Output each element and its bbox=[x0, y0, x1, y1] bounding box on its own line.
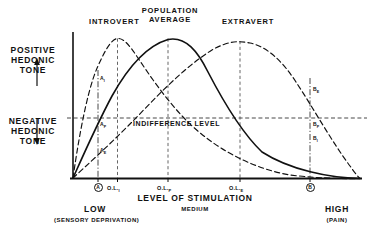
point-label-a-extravert-sub: E bbox=[104, 151, 107, 155]
x-tick-label-ol-p-base: O.L. bbox=[157, 185, 169, 191]
x-tick-marker-b: B bbox=[306, 183, 315, 192]
y-axis-positive-line3: TONE bbox=[2, 66, 64, 76]
curve-label-population-line2: AVERAGE bbox=[136, 16, 204, 25]
x-tick-marker-a-label: A bbox=[96, 184, 100, 190]
point-label-b-population-sub: P bbox=[317, 125, 320, 129]
x-tick-label-ol-i-base: O.L. bbox=[107, 185, 119, 191]
point-label-a-extravert: AE bbox=[100, 148, 106, 155]
point-label-b-extravert: BE bbox=[313, 87, 319, 94]
x-region-sublabel-sensory-deprivation: (SENSORY DEPRIVATION) bbox=[54, 217, 136, 224]
reference-lines bbox=[67, 39, 367, 179]
y-axis-negative-label: NEGATIVE HEDONIC TONE bbox=[2, 117, 64, 146]
x-tick-label-ol-e-base: O.L. bbox=[229, 185, 241, 191]
x-tick-marker-a: A bbox=[94, 183, 103, 192]
curve-extravert bbox=[73, 42, 360, 179]
x-region-label-medium: MEDIUM bbox=[165, 206, 225, 213]
x-region-label-high: HIGH bbox=[315, 205, 359, 215]
x-region-sublabel-pain: (PAIN) bbox=[315, 217, 359, 224]
point-label-b-extravert-sub: E bbox=[317, 90, 320, 94]
point-label-a-introvert: AI bbox=[100, 76, 105, 83]
x-tick-label-ol-i-sub: I bbox=[119, 188, 120, 193]
y-axis-positive-label: POSITIVE HEDONIC TONE bbox=[2, 46, 64, 75]
curve-label-extravert: EXTRAVERT bbox=[222, 18, 274, 27]
indifference-level-label: INDIFFERENCE LEVEL bbox=[133, 120, 220, 128]
curve-population-average bbox=[73, 39, 360, 178]
curve-label-population-average: POPULATION AVERAGE bbox=[136, 7, 204, 24]
x-tick-label-ol-i: O.L.I bbox=[107, 185, 120, 194]
point-label-b-introvert-sub: I bbox=[317, 139, 318, 143]
chart-figure: POSITIVE HEDONIC TONE NEGATIVE HEDONIC T… bbox=[0, 0, 373, 230]
point-label-b-population: BP bbox=[313, 122, 319, 129]
x-tick-marker-b-label: B bbox=[308, 184, 312, 190]
curve-introvert bbox=[73, 38, 360, 178]
x-region-label-low: LOW bbox=[70, 205, 120, 215]
x-axis-title: LEVEL OF STIMULATION bbox=[120, 194, 270, 204]
y-axis-negative-line3: TONE bbox=[2, 137, 64, 147]
axes bbox=[70, 32, 362, 179]
point-label-a-population: AP bbox=[100, 122, 106, 129]
point-label-b-introvert: BI bbox=[313, 136, 318, 143]
point-label-a-introvert-sub: I bbox=[104, 79, 105, 83]
point-label-a-population-sub: P bbox=[104, 125, 107, 129]
curve-label-introvert: INTROVERT bbox=[89, 18, 140, 27]
